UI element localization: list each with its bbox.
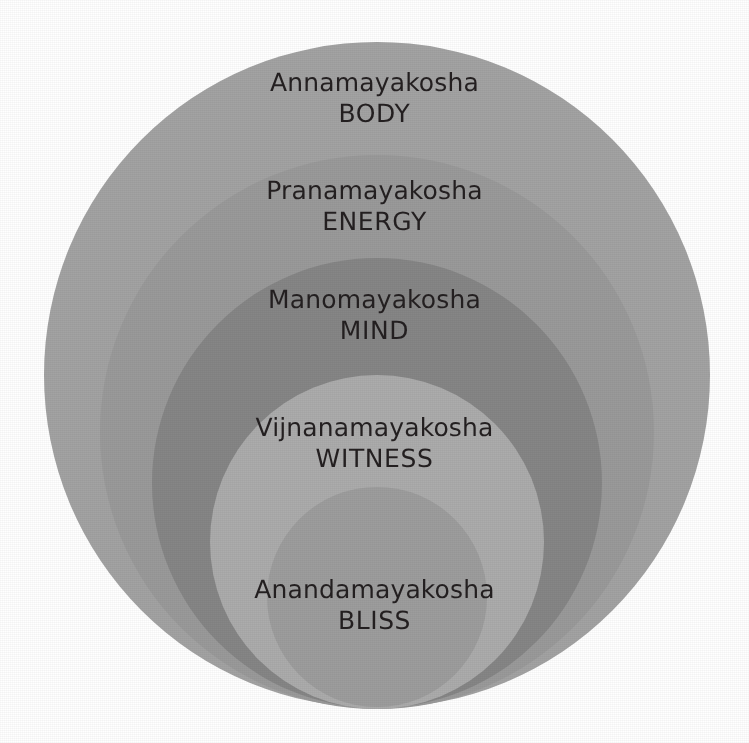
kosha-diagram: Annamayakosha BODY Pranamayakosha ENERGY… [0, 0, 749, 743]
label-english: ENERGY [0, 207, 749, 238]
label-english: BLISS [0, 606, 749, 637]
label-sanskrit: Annamayakosha [0, 68, 749, 99]
label-english: MIND [0, 316, 749, 347]
label-vijnanamayakosha: Vijnanamayakosha WITNESS [0, 413, 749, 474]
label-anandamayakosha: Anandamayakosha BLISS [0, 575, 749, 636]
label-sanskrit: Pranamayakosha [0, 176, 749, 207]
label-english: WITNESS [0, 444, 749, 475]
label-pranamayakosha: Pranamayakosha ENERGY [0, 176, 749, 237]
label-annamayakosha: Annamayakosha BODY [0, 68, 749, 129]
label-sanskrit: Vijnanamayakosha [0, 413, 749, 444]
label-sanskrit: Manomayakosha [0, 285, 749, 316]
label-manomayakosha: Manomayakosha MIND [0, 285, 749, 346]
label-sanskrit: Anandamayakosha [0, 575, 749, 606]
label-english: BODY [0, 99, 749, 130]
